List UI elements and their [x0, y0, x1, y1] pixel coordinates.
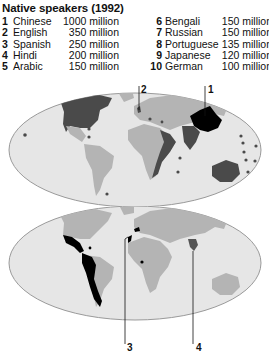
- legend-row: 7Russian150 million: [148, 27, 269, 38]
- callout-label-chinese: 1: [208, 84, 214, 95]
- legend-rank: 10: [148, 61, 162, 72]
- callout-label-hindi: 4: [196, 342, 202, 353]
- callout-label-english: 2: [141, 84, 147, 95]
- legend-row: 10German100 million: [148, 61, 269, 72]
- legend-language: Arabic: [13, 61, 53, 72]
- legend-rank: 2: [2, 27, 10, 38]
- legend-rank: 7: [148, 27, 162, 38]
- legend-left: 1Chinese1000 million 2English350 million…: [2, 16, 119, 72]
- legend-row: 2English350 million: [2, 27, 119, 38]
- world-map-top: [0, 86, 269, 212]
- legend-language: Russian: [165, 27, 209, 38]
- legend-speakers: 150 million: [53, 61, 119, 72]
- legend-row: 5Arabic150 million: [2, 61, 119, 72]
- callout-label-spanish: 3: [127, 342, 133, 353]
- legend-speakers: 100 million: [209, 61, 269, 72]
- legend-speakers: 350 million: [53, 27, 119, 38]
- spanish-region-caribbean: [89, 247, 92, 250]
- legend-rank: 5: [2, 61, 10, 72]
- spanish-region-equatorial-guinea: [140, 260, 143, 263]
- legend-right: 6Bengali150 million 7Russian150 million …: [148, 16, 269, 72]
- legend-language: English: [13, 27, 53, 38]
- chart-title: Native speakers (1992): [2, 2, 124, 14]
- world-map-bottom: [0, 207, 269, 358]
- legend-speakers: 150 million: [209, 27, 269, 38]
- legend-language: German: [165, 61, 209, 72]
